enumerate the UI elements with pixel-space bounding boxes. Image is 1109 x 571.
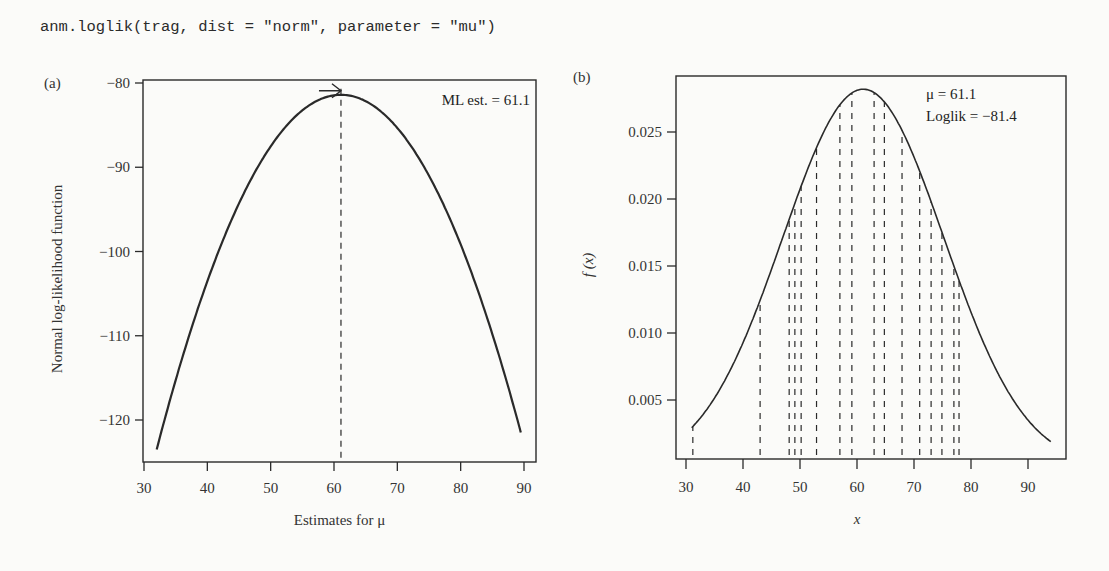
x-tick-label-b: 40 (736, 479, 751, 495)
panel-label-a: (a) (44, 75, 61, 92)
y-tick-label-a: −120 (99, 412, 130, 428)
x-tick-label-a: 60 (327, 480, 342, 496)
loglik-curve (157, 95, 521, 450)
x-axis-title-b: x (853, 511, 861, 527)
x-tick-label-b: 70 (907, 479, 922, 495)
x-tick-label-a: 90 (517, 480, 532, 496)
density-curve (692, 89, 1051, 442)
x-tick-label-a: 50 (263, 480, 278, 496)
x-tick-label-a: 70 (390, 480, 405, 496)
x-tick-label-a: 30 (137, 480, 152, 496)
mu-annotation: μ = 61.1 (926, 86, 976, 102)
panel-b: 0.0050.0100.0150.0200.02530405060708090μ… (573, 69, 1066, 527)
x-axis-title-a: Estimates for μ (294, 512, 385, 528)
x-tick-label-b: 30 (679, 479, 694, 495)
y-tick-label-b: 0.010 (628, 325, 662, 341)
x-tick-label-b: 90 (1021, 479, 1036, 495)
figure: −80−90−100−110−12030405060708090ML est. … (0, 0, 1109, 571)
y-tick-label-b: 0.015 (628, 258, 662, 274)
panel-a: −80−90−100−110−12030405060708090ML est. … (44, 75, 536, 528)
y-tick-label-a: −100 (99, 244, 130, 260)
y-axis-title-a: Normal log-likelihood function (49, 184, 65, 373)
loglik-annotation: Loglik = −81.4 (926, 108, 1017, 124)
plot-box-a (143, 80, 536, 462)
x-tick-label-a: 80 (453, 480, 468, 496)
y-tick-label-b: 0.025 (628, 124, 662, 140)
y-axis-title-b: f (x) (580, 253, 597, 278)
x-tick-label-a: 40 (200, 480, 215, 496)
ml-estimate-annotation: ML est. = 61.1 (442, 92, 530, 108)
y-tick-label-b: 0.005 (628, 392, 662, 408)
y-tick-label-b: 0.020 (628, 191, 662, 207)
x-tick-label-b: 80 (964, 479, 979, 495)
x-tick-label-b: 60 (850, 479, 865, 495)
y-tick-label-a: −80 (107, 75, 130, 91)
y-tick-label-a: −90 (107, 159, 130, 175)
y-tick-label-a: −110 (100, 328, 130, 344)
plot-box-b (676, 76, 1066, 459)
x-tick-label-b: 50 (793, 479, 808, 495)
panel-label-b: (b) (573, 69, 591, 86)
